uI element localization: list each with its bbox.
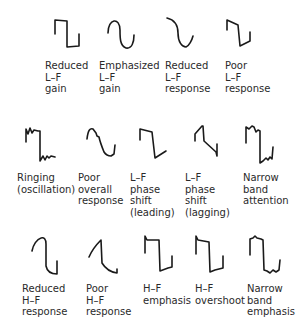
waveform-reduced-lf-response [167, 18, 193, 47]
label-emphasized-lf-gain: Emphasized L–F gain [99, 60, 160, 95]
waveform-narrow-band-attention [246, 126, 273, 163]
waveform-hf-overshoot [196, 236, 223, 272]
waveform-ringing [26, 128, 55, 161]
label-hf-emphasis: H–F emphasis [143, 283, 191, 306]
label-lf-phase-shift-lagging: L–F phase shift (lagging) [185, 172, 230, 218]
waveform-emphasized-lf-gain [108, 21, 134, 48]
waveform-poor-overall-response [87, 129, 115, 156]
waveform-reduced-lf-gain [55, 20, 79, 47]
label-reduced-hf-response: Reduced H–F response [22, 283, 67, 318]
waveform-lf-phase-shift-lagging [195, 126, 217, 156]
label-hf-overshoot: H–F overshoot [195, 283, 245, 306]
waveform-narrow-band-emphasis [250, 236, 280, 273]
waveform-lf-phase-shift-leading [140, 129, 166, 158]
label-lf-phase-shift-leading: L–F phase shift (leading) [130, 172, 175, 218]
waveform-reduced-hf-response [32, 238, 57, 274]
label-poor-overall-response: Poor overall response [78, 172, 123, 207]
label-reduced-lf-response: Reduced L–F response [165, 60, 210, 95]
waveform-poor-hf-response [89, 240, 117, 273]
waveform-poor-lf-response [227, 20, 250, 46]
label-narrow-band-attention: Narrow band attention [243, 172, 289, 207]
label-poor-lf-response: Poor L–F response [225, 60, 270, 95]
label-narrow-band-emphasis: Narrow band emphasis [247, 283, 295, 318]
label-ringing: Ringing (oscillation) [17, 172, 75, 195]
waveform-hf-emphasis [145, 236, 172, 271]
label-poor-hf-response: Poor H–F response [86, 283, 131, 318]
label-reduced-lf-gain: Reduced L–F gain [45, 60, 88, 95]
